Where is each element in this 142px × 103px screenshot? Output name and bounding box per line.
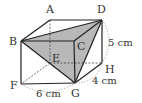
cuboid-diagram: A B C D E F G H 5 cm 6 cm 4 cm (0, 0, 142, 103)
vertex-label-g: G (71, 87, 80, 100)
vertex-label-b: B (9, 35, 17, 48)
edge-ef (21, 63, 50, 84)
vertex-label-c: C (77, 40, 85, 53)
vertex-label-d: D (97, 3, 106, 16)
vertex-label-a: A (45, 3, 55, 16)
vertex-label-e: E (52, 52, 60, 65)
dimension-label-width: 6 cm (36, 88, 61, 99)
vertex-label-f: F (10, 79, 18, 92)
dimension-label-depth: 4 cm (92, 75, 117, 86)
dimension-label-height: 5 cm (108, 37, 133, 48)
edge-fg (21, 83, 75, 84)
